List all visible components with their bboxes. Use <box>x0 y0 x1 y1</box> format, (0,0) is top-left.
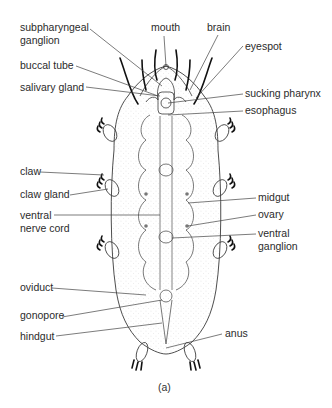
label-eyespot: eyespot <box>245 40 282 53</box>
label-oviduct: oviduct <box>20 281 53 294</box>
figure-caption: (a) <box>158 381 171 393</box>
label-line: ventral <box>20 209 70 222</box>
label-subpharyngeal-ganglion: subpharyngeal ganglion <box>20 21 89 47</box>
label-buccal-tube: buccal tube <box>20 59 74 72</box>
label-brain: brain <box>207 21 230 34</box>
label-salivary-gland: salivary gland <box>20 81 84 94</box>
label-ventral-nerve-cord: ventral nerve cord <box>20 209 70 235</box>
label-claw: claw <box>20 165 41 178</box>
label-line: ganglion <box>20 34 89 47</box>
label-mouth: mouth <box>151 21 180 34</box>
label-line: nerve cord <box>20 222 70 235</box>
label-gonopore: gonopore <box>20 309 64 322</box>
label-claw-gland: claw gland <box>20 188 70 201</box>
label-anus: anus <box>225 327 248 340</box>
body-outline <box>111 66 221 354</box>
label-ventral-ganglion: ventral ganglion <box>258 227 298 253</box>
label-line: ventral <box>258 227 298 240</box>
label-esophagus: esophagus <box>245 104 296 117</box>
label-line: ganglion <box>258 240 298 253</box>
label-line: subpharyngeal <box>20 21 89 34</box>
label-hindgut: hindgut <box>20 330 54 343</box>
label-ovary: ovary <box>258 208 284 221</box>
label-midgut: midgut <box>258 191 290 204</box>
label-sucking-pharynx: sucking pharynx <box>245 87 321 100</box>
